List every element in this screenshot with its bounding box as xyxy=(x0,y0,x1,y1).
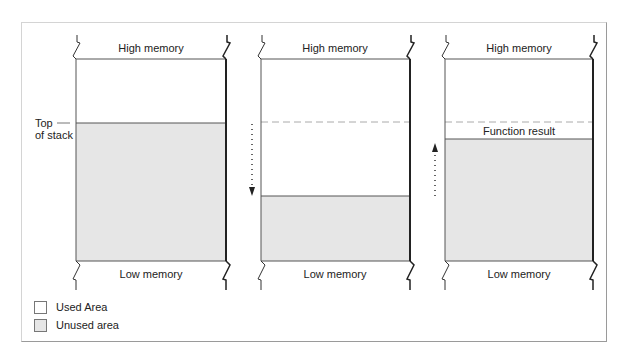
column-before-call xyxy=(57,35,230,290)
break-mark-icon xyxy=(407,35,414,59)
column-during-call xyxy=(249,35,414,290)
low-memory-label: Low memory xyxy=(120,268,183,280)
legend-label-used: Used Area xyxy=(56,301,107,313)
high-memory-label: High memory xyxy=(118,42,183,54)
break-mark-icon xyxy=(407,261,414,290)
legend-swatch-unused xyxy=(34,319,47,332)
break-mark-icon xyxy=(258,261,265,290)
break-mark-icon xyxy=(223,261,230,290)
top-of-stack-label-line2: of stack xyxy=(35,129,73,141)
break-mark-icon xyxy=(223,35,230,59)
unused-area xyxy=(261,196,410,261)
top-of-stack-label-line1: Top xyxy=(35,117,53,129)
high-memory-label: High memory xyxy=(486,42,551,54)
break-mark-icon xyxy=(73,35,80,59)
legend-swatch-used xyxy=(34,301,47,314)
function-result-label: Function result xyxy=(483,125,555,137)
break-mark-icon xyxy=(590,261,597,290)
low-memory-label: Low memory xyxy=(304,268,367,280)
arrow-up-head xyxy=(432,143,438,152)
break-mark-icon xyxy=(442,261,449,290)
break-mark-icon xyxy=(442,35,449,59)
arrow-down-head xyxy=(249,187,255,196)
break-mark-icon xyxy=(258,35,265,59)
unused-area xyxy=(76,123,226,261)
break-mark-icon xyxy=(590,35,597,59)
high-memory-label: High memory xyxy=(302,42,367,54)
break-mark-icon xyxy=(73,261,80,290)
legend-label-unused: Unused area xyxy=(56,319,119,331)
column-after-call xyxy=(432,35,597,290)
unused-area xyxy=(445,139,593,261)
low-memory-label: Low memory xyxy=(488,268,551,280)
